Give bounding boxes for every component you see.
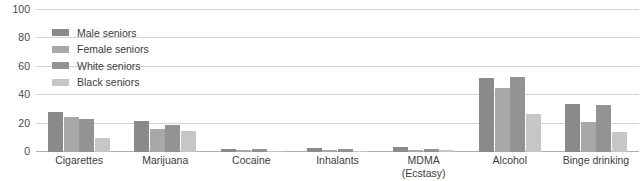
bar xyxy=(150,129,165,152)
bar xyxy=(134,121,149,152)
x-axis-label-line: (Ecstasy) xyxy=(402,167,446,180)
bar xyxy=(424,149,439,152)
legend-swatch-icon xyxy=(52,62,69,69)
legend: Male seniorsFemale seniorsWhite seniorsB… xyxy=(52,26,149,92)
x-axis-labels: CigarettesMarijuanaCocaineInhalantsMDMA(… xyxy=(36,154,639,181)
legend-item: Male seniors xyxy=(52,26,149,39)
bar xyxy=(165,125,180,152)
x-axis-label: Cigarettes xyxy=(55,154,103,167)
bar-group xyxy=(221,10,283,152)
legend-item: White seniors xyxy=(52,59,149,72)
bar xyxy=(95,138,110,152)
bar xyxy=(307,148,322,152)
x-axis-label: MDMA(Ecstasy) xyxy=(402,154,446,179)
bar xyxy=(236,150,251,152)
x-axis-label-line: Cigarettes xyxy=(55,154,103,166)
x-axis-label-line: MDMA xyxy=(408,154,440,166)
x-axis-label-line: Marijuana xyxy=(142,154,188,166)
bar xyxy=(64,117,79,153)
bar xyxy=(393,147,408,152)
bar-group xyxy=(565,10,627,152)
bar xyxy=(181,131,196,152)
bar xyxy=(267,151,282,152)
bar xyxy=(322,150,337,152)
bar xyxy=(439,150,454,152)
bar xyxy=(252,149,267,152)
x-axis-label-line: Alcohol xyxy=(493,154,527,166)
y-axis-tick-label: 40 xyxy=(18,88,30,100)
bar xyxy=(510,77,525,152)
bar-group xyxy=(307,10,369,152)
legend-swatch-icon xyxy=(52,46,69,53)
bar xyxy=(408,150,423,152)
y-axis-tick-label: 100 xyxy=(12,3,30,15)
bar xyxy=(596,105,611,152)
legend-item-label: Male seniors xyxy=(77,27,137,39)
x-axis-label: Cocaine xyxy=(232,154,271,167)
x-axis-label: Marijuana xyxy=(142,154,188,167)
legend-item-label: White seniors xyxy=(77,60,141,72)
x-axis-label-line: Binge drinking xyxy=(563,154,630,166)
bar xyxy=(581,122,596,152)
legend-item: Female seniors xyxy=(52,43,149,56)
bar xyxy=(221,149,236,152)
bar xyxy=(526,114,541,152)
bar-group xyxy=(479,10,541,152)
bar xyxy=(79,119,94,152)
bar xyxy=(479,78,494,152)
bar xyxy=(565,104,580,152)
y-axis-tick-label: 20 xyxy=(18,117,30,129)
x-axis-label: Binge drinking xyxy=(563,154,630,167)
x-axis-label-line: Cocaine xyxy=(232,154,271,166)
x-axis-label: Inhalants xyxy=(316,154,359,167)
legend-item: Black seniors xyxy=(52,76,149,89)
legend-swatch-icon xyxy=(52,79,69,86)
bar-chart: 020406080100 CigarettesMarijuanaCocaineI… xyxy=(0,0,641,181)
bar xyxy=(612,132,627,152)
bar xyxy=(353,151,368,152)
y-axis-tick-label: 80 xyxy=(18,31,30,43)
legend-item-label: Black seniors xyxy=(77,76,139,88)
x-axis-label-line: Inhalants xyxy=(316,154,359,166)
y-axis-tick-label: 60 xyxy=(18,60,30,72)
bar xyxy=(48,112,63,152)
bar xyxy=(338,149,353,152)
x-axis-label: Alcohol xyxy=(493,154,527,167)
bar xyxy=(495,88,510,152)
bar-group xyxy=(393,10,455,152)
legend-item-label: Female seniors xyxy=(77,43,149,55)
y-axis-tick-label: 0 xyxy=(24,145,30,157)
legend-swatch-icon xyxy=(52,29,69,36)
